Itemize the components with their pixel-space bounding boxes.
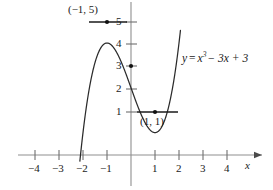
point-maximum <box>105 20 109 24</box>
y-tick-label-4: 4 <box>116 38 122 49</box>
y-tick-label-5: 5 <box>116 16 122 27</box>
cubic-curve <box>80 30 181 161</box>
x-tick-label-minus3: −3 <box>52 163 64 174</box>
y-tick-label-2: 2 <box>116 83 122 94</box>
x-tick-label-2: 2 <box>176 163 182 174</box>
x-axis-arrow-icon <box>254 152 262 158</box>
plot-canvas <box>0 0 273 190</box>
minimum-point-label: (1, 1) <box>140 116 164 127</box>
x-tick-label-minus2: −2 <box>76 163 88 174</box>
x-tick-label-4: 4 <box>224 163 230 174</box>
equation-label: y=x3− 3x + 3 <box>182 53 248 65</box>
maximum-point-label: (−1, 5) <box>68 4 98 15</box>
graph-figure: (−1, 5) (1, 1) y=x3− 3x + 3 5 4 3 2 1 −4… <box>0 0 273 190</box>
x-axis-label: x <box>245 160 250 171</box>
x-tick-label-minus4: −4 <box>28 163 40 174</box>
equation-rest: − 3x + 3 <box>207 52 248 64</box>
y-tick-label-1: 1 <box>116 106 122 117</box>
x-tick-label-1: 1 <box>152 163 158 174</box>
equation-exponent: 3 <box>203 50 207 59</box>
y-tick-label-3: 3 <box>116 60 122 71</box>
x-tick-label-3: 3 <box>200 163 206 174</box>
point-y-intercept <box>129 64 133 68</box>
point-minimum <box>153 110 157 114</box>
equation-lhs: y <box>182 52 187 64</box>
equation-equals: = <box>189 52 196 64</box>
x-tick-label-minus1: −1 <box>100 163 112 174</box>
